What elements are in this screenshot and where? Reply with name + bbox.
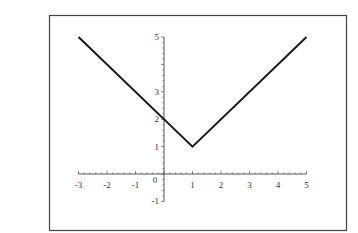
- x-tick-label: 1: [190, 180, 195, 190]
- x-tick-label: 3: [247, 180, 252, 190]
- x-tick-label: -3: [75, 180, 83, 190]
- chart-figure: -3-2-1012345 -11235: [0, 0, 358, 233]
- y-tick-label: 1: [155, 142, 160, 152]
- x-tick-label: -1: [132, 180, 140, 190]
- x-tick-label: 2: [219, 180, 224, 190]
- x-tick-label: -2: [103, 180, 111, 190]
- x-tick-label: 0: [153, 175, 158, 185]
- y-tick-label: -1: [152, 196, 160, 206]
- x-tick-label: 5: [304, 180, 309, 190]
- y-tick-label: 5: [155, 32, 160, 42]
- y-tick-label: 2: [155, 114, 160, 124]
- y-tick-label: 3: [155, 87, 160, 97]
- x-tick-label: 4: [276, 180, 281, 190]
- plot-frame: [50, 16, 347, 231]
